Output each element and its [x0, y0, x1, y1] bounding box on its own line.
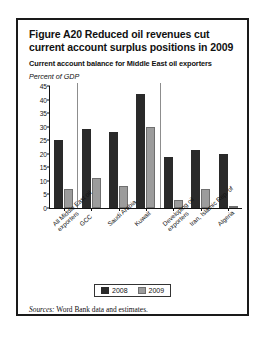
- legend-swatch-2009: [138, 287, 146, 294]
- y-axis-label: Percent of GDP: [29, 72, 79, 81]
- bar-2008: [54, 140, 63, 208]
- sources-text: Word Bank data and estimates.: [56, 305, 148, 314]
- x-axis-category-labels: All Middle East oil exportersGCCSaudi Ar…: [49, 222, 241, 284]
- legend-item-2009: 2009: [138, 287, 165, 294]
- figure-container: Figure A20 Reduced oil revenues cut curr…: [16, 18, 249, 316]
- sources-note: Sources: Word Bank data and estimates.: [29, 305, 148, 314]
- bar-group: [50, 86, 77, 208]
- x-axis-category: All Middle East oil exporters: [49, 222, 76, 284]
- figure-subtitle: Current account balance for Middle East …: [29, 59, 244, 68]
- x-axis-category: Kuwait: [131, 222, 158, 284]
- x-axis-category: Iran, Islamic Rep. of: [186, 222, 213, 284]
- x-axis-category: Algeria: [214, 222, 241, 284]
- chart-legend: 2008 2009: [94, 284, 171, 297]
- x-axis-category: Developing oil exporters: [159, 222, 186, 284]
- legend-item-2008: 2008: [101, 287, 128, 294]
- sources-prefix: Sources:: [29, 305, 55, 314]
- legend-swatch-2008: [101, 287, 109, 294]
- legend-label-2008: 2008: [112, 287, 128, 294]
- x-axis-category: Saudi Arabia: [104, 222, 131, 284]
- bar-2009: [146, 127, 155, 208]
- legend-label-2009: 2009: [149, 287, 165, 294]
- figure-title: Figure A20 Reduced oil revenues cut curr…: [29, 28, 241, 53]
- x-axis-category: GCC: [76, 222, 103, 284]
